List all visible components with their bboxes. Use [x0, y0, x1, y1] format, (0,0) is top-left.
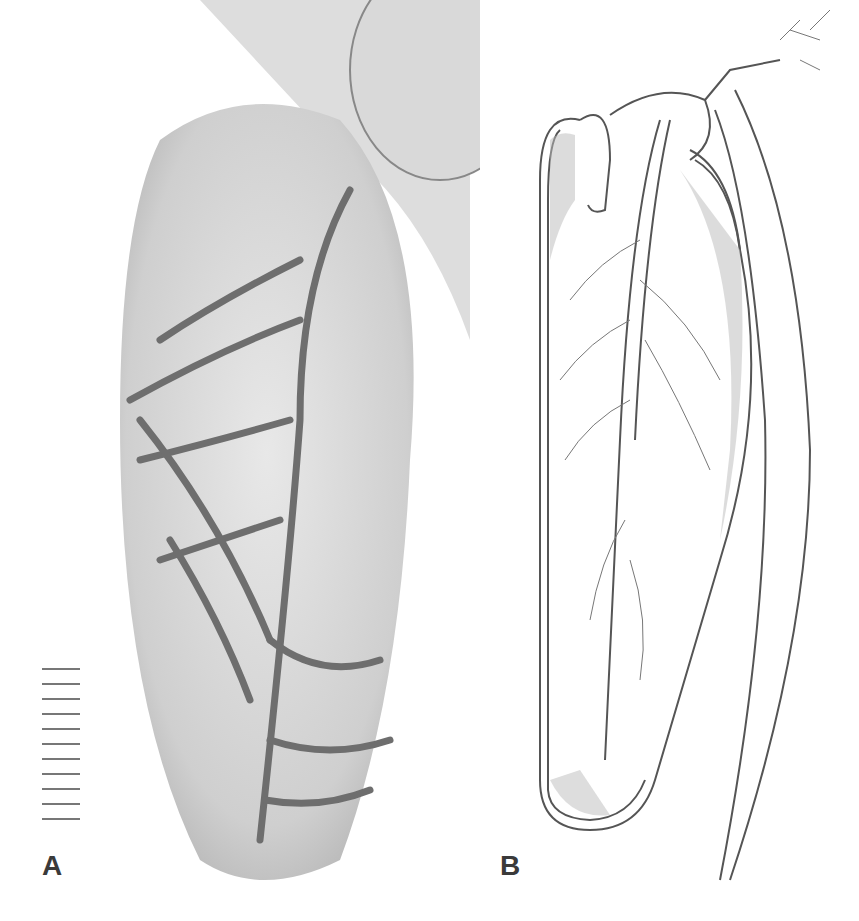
scale-bar: [42, 668, 80, 820]
organ-drawing: [480, 0, 859, 921]
panel-label-a: A: [42, 850, 62, 882]
panel-a-photo: A: [0, 0, 480, 921]
panel-label-b: B: [500, 850, 520, 882]
panel-b-drawing: B: [480, 0, 859, 921]
